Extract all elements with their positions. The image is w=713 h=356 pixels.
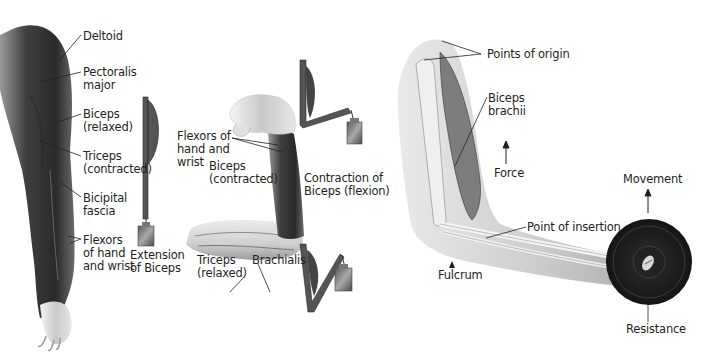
label-bicipital-fascia-line2: fascia [83, 205, 115, 218]
weight-plate [606, 219, 692, 322]
label-point-of-insertion: Point of insertion [527, 221, 621, 234]
label-biceps-relaxed-line2: (relaxed) [83, 121, 133, 134]
label-brachialis: Brachialis [252, 254, 306, 267]
caption-extension-line2: of Biceps [130, 262, 181, 275]
label-force: Force [494, 167, 524, 180]
label-flexors-left-line3: and wrist [83, 260, 134, 273]
left-arm-illustration [0, 25, 75, 350]
label-triceps-contracted-line2: (contracted) [83, 163, 152, 176]
label-fulcrum: Fulcrum [438, 269, 483, 282]
label-movement: Movement [623, 173, 682, 186]
muscle-lever-diagram: Deltoid Pectoralis major Biceps (relaxed… [0, 0, 713, 356]
caption-contraction-line2: Biceps (flexion) [304, 185, 390, 198]
label-pectoralis-line2: major [83, 79, 115, 92]
label-triceps-relaxed-line2: (relaxed) [197, 267, 247, 280]
label-flexors-middle-line3: wrist [177, 156, 204, 169]
label-biceps-contracted-line2: (contracted) [209, 173, 278, 186]
fulcrum-icon [449, 261, 455, 268]
label-biceps-brachii-line2: brachii [488, 105, 526, 118]
label-deltoid: Deltoid [83, 30, 123, 43]
label-points-of-origin: Points of origin [487, 48, 569, 61]
label-resistance: Resistance [626, 323, 686, 336]
force-arrow-icon [503, 141, 509, 164]
flexion-model-top [300, 60, 362, 144]
flexion-model-bottom [300, 244, 352, 312]
movement-arrow-icon [645, 189, 651, 213]
